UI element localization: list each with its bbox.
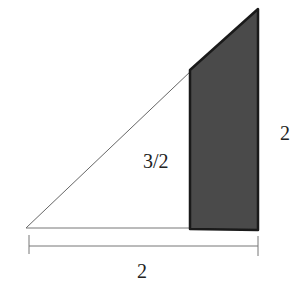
diagram-canvas: 3/2 2 2 <box>0 0 291 300</box>
inner-height-label: 3/2 <box>143 150 169 172</box>
hypotenuse-lower <box>26 70 192 228</box>
shaded-region <box>190 9 258 230</box>
base-width-label: 2 <box>137 260 147 282</box>
right-height-label: 2 <box>280 122 290 144</box>
